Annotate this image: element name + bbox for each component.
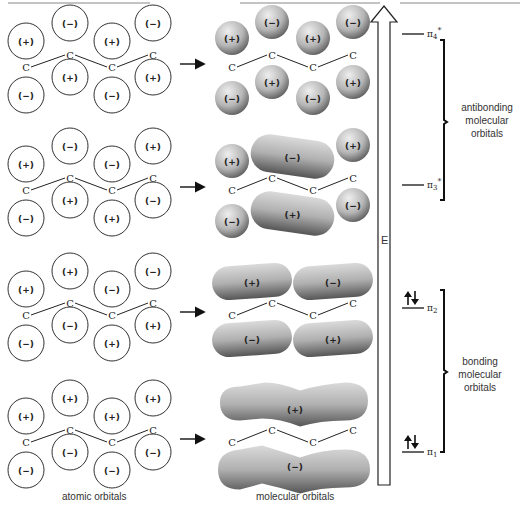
phase-sign: (−) [285,153,301,163]
phase-sign: (−) [145,19,161,29]
bond-line [31,303,65,315]
carbon-atom: C [22,437,30,448]
phase-sign: (+) [145,394,161,404]
carbon-atom: C [309,437,317,448]
bond-line [237,178,267,190]
carbon-atom: C [268,173,276,184]
carbon-atom: C [349,298,357,309]
orbital-row-2: (+)(−)(−)(+)(−)(+)(+)(−)CCCC(+)(+)(−)(−)… [8,128,370,238]
phase-sign: (−) [345,18,361,28]
level-label: π3* [427,177,441,192]
phase-sign: (−) [104,285,120,295]
carbon-atom: C [66,173,74,184]
carbon-atom: C [108,62,116,73]
phase-sign: (−) [145,448,161,458]
phase-sign: (+) [287,405,303,415]
bond-line [75,430,107,442]
carbon-atom: C [228,185,236,196]
carbon-atom: C [228,62,236,73]
carbon-atom: C [108,437,116,448]
orbital-row-4: (+)(−)(+)(−)(+)(−)(+)(−)CCCC(+)(−)CCCC [8,380,370,494]
energy-axis: E [371,6,397,485]
electron-pair-icon [404,435,419,449]
atomic-orbitals: (+)(−)(+)(−)(−)(+)(−)(+)CCCC [8,253,171,361]
phase-sign: (+) [305,34,321,44]
carbon-atom: C [268,425,276,436]
phase-sign: (−) [62,19,78,29]
level-label: π2 [427,303,437,315]
bond-line [318,430,348,442]
phase-sign: (+) [62,394,78,404]
phase-sign: (−) [18,339,34,349]
energy-level-π4*: π4* [402,26,441,41]
atomic-orbitals: (+)(−)(−)(+)(−)(+)(+)(−)CCCC [8,128,171,236]
energy-label: E [381,234,388,246]
energy-level-π2: π2 [402,291,437,315]
carbon-atom: C [349,425,357,436]
carbon-atom: C [309,310,317,321]
molecular-orbital: (+)(−)(+)(−)(−)(+)(−)(+)CCCC [215,5,370,115]
antibonding-label: antibonding molecular orbitals [461,102,513,139]
phase-sign: (−) [244,335,260,345]
atomic-orbitals: (+)(−)(+)(−)(+)(−)(+)(−)CCCC [8,380,171,488]
bond-line [277,430,308,442]
carbon-atom: C [349,173,357,184]
svg-text:orbitals: orbitals [471,128,503,139]
carbon-atom: C [22,185,30,196]
svg-text:molecular: molecular [465,115,509,126]
energy-level-π1: π1 [402,435,437,459]
orbital-row-3: (+)(−)(+)(−)(−)(+)(−)(+)CCCC(+)(−)(−)(+)… [8,253,374,361]
phase-sign: (−) [104,91,120,101]
phase-sign: (+) [62,267,78,277]
phase-sign: (+) [145,142,161,152]
energy-level-π3*: π3* [402,177,441,192]
phase-sign: (−) [104,466,120,476]
bond-line [277,303,308,315]
phase-sign: (+) [345,78,361,88]
bond-line [117,55,148,67]
molecular-orbital: (+)(−)(−)(+)CCCC [211,262,374,358]
carbon-atom: C [22,310,30,321]
phase-sign: (+) [264,78,280,88]
phase-sign: (−) [224,94,240,104]
phase-sign: (−) [18,214,34,224]
phase-sign: (+) [325,335,341,345]
phase-sign: (+) [62,73,78,83]
phase-sign: (+) [62,196,78,206]
bond-line [75,55,107,67]
carbon-atom: C [268,50,276,61]
carbon-atom: C [349,50,357,61]
bond-line [277,178,308,190]
carbon-atom: C [149,425,157,436]
phase-sign: (+) [145,73,161,83]
phase-sign: (+) [224,34,240,44]
bond-line [237,430,267,442]
phase-sign: (−) [18,466,34,476]
phase-sign: (−) [104,160,120,170]
bond-line [277,55,308,67]
phase-sign: (−) [325,278,341,288]
phase-sign: (−) [264,18,280,28]
phase-sign: (−) [62,142,78,152]
phase-sign: (+) [18,412,34,422]
carbon-atom: C [228,310,236,321]
phase-sign: (+) [104,214,120,224]
bond-line [31,55,65,67]
level-label: π4* [427,26,441,41]
phase-sign: (−) [62,321,78,331]
carbon-atom: C [66,298,74,309]
carbon-atom: C [22,62,30,73]
phase-sign: (−) [287,462,303,472]
carbon-atom: C [66,50,74,61]
svg-text:antibonding: antibonding [461,102,513,113]
svg-text:orbitals: orbitals [464,382,496,393]
carbon-atom: C [309,185,317,196]
bonding-bracket [440,290,447,452]
electron-pair-icon [404,291,419,305]
butadiene-mo-diagram: (+)(−)(−)(+)(+)(−)(−)(+)CCCC(+)(−)(+)(−)… [0,0,527,510]
bond-line [237,303,267,315]
bond-line [318,303,348,315]
phase-sign: (+) [18,160,34,170]
phase-sign: (+) [285,210,301,220]
molecular-orbital: (+)(+)(−)(−)(−)(+)CCCC [215,128,370,238]
